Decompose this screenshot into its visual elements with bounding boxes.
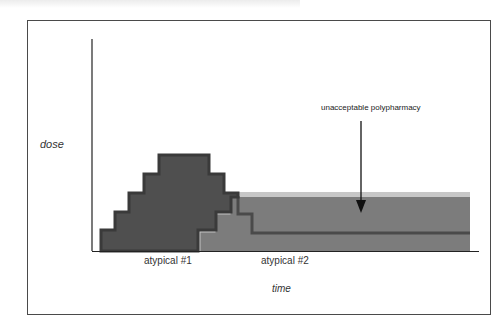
y-axis-label: dose [40,138,64,150]
atypical-2-label: atypical #2 [261,255,309,266]
dose-time-diagram [0,0,502,332]
atypical-2-area [198,192,470,251]
polypharmacy-annotation: unacceptable polypharmacy [321,103,421,112]
atypical-1-label: atypical #1 [144,255,192,266]
x-axis-label: time [272,283,291,294]
